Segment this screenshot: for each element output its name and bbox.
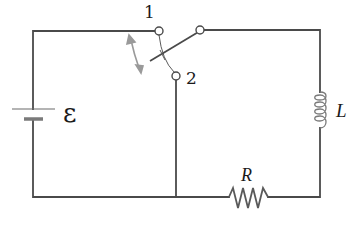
inductor-label: L [336, 101, 347, 120]
switch-position-2-label: 2 [186, 70, 197, 87]
resistor-label: R [241, 166, 252, 184]
wire-top-right [204, 30, 320, 92]
switch-position-1-label: 1 [144, 4, 155, 21]
switch-terminal-1 [155, 27, 163, 35]
inductor-symbol [315, 92, 326, 128]
switch-terminal-pivot [196, 26, 204, 34]
wire-left-bottom [33, 119, 229, 197]
switch-motion-arrow-icon [127, 35, 143, 73]
switch-blade [150, 31, 200, 61]
switch-terminal-2 [172, 72, 180, 80]
wire-left-top [33, 31, 155, 109]
battery-symbol [12, 109, 55, 119]
circuit-diagram [0, 0, 351, 238]
wire-right-bottom [268, 128, 320, 197]
resistor-symbol [229, 188, 268, 208]
emf-label: ε [63, 100, 76, 126]
